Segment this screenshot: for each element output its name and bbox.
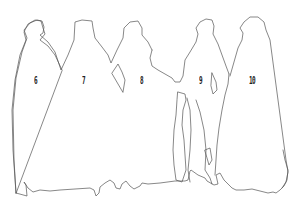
figure-8-diamond [112,64,125,92]
figure-label-10: 10 [249,75,255,86]
figures-outline-drawing [0,0,303,207]
figure-10-outline [230,17,288,188]
figure-label-8: 8 [140,75,143,86]
figure-label-9: 9 [199,75,202,86]
figure-8-arm [150,19,229,82]
figures-6-7-8-outline [13,20,152,193]
figure-label-6: 6 [34,75,37,86]
figure-canvas: 6 7 8 9 10 [0,0,303,207]
figure-9-sword [173,92,186,182]
figure-9-body [187,73,217,184]
figure-bottom-edge [16,150,288,196]
figure-label-7: 7 [82,75,85,86]
figure-6-outline [12,20,62,193]
